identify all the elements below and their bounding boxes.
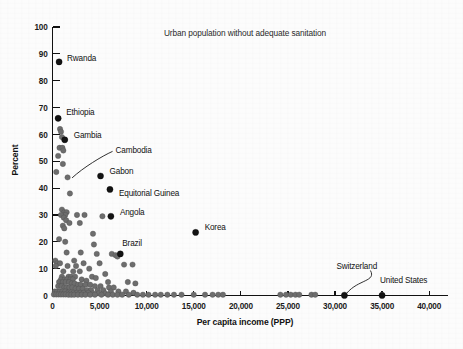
y-tick-label: 100 — [34, 23, 48, 32]
data-point — [64, 250, 69, 255]
highlighted-data-point — [55, 115, 61, 121]
data-point — [73, 263, 78, 268]
x-tick-label: 40,000 — [417, 302, 441, 311]
highlighted-data-point — [193, 229, 199, 235]
data-point — [77, 220, 82, 225]
data-point — [74, 212, 79, 217]
data-point — [65, 175, 70, 180]
highlighted-data-point — [56, 59, 62, 65]
y-tick-label: 40 — [39, 184, 48, 193]
data-point — [78, 250, 83, 255]
data-point — [210, 292, 215, 297]
x-tick-label: 30,000 — [323, 302, 347, 311]
data-point — [135, 292, 140, 297]
y-tick-label: 90 — [39, 50, 48, 59]
data-point — [165, 292, 170, 297]
data-point — [179, 292, 184, 297]
annotation-labels-group: RwandaEthiopiaGambiaCambodiaGabonEquitor… — [66, 54, 427, 285]
data-point — [191, 292, 196, 297]
scatter-plot-figure: Urban population without adequate sanita… — [0, 0, 463, 349]
x-tick-labels: 05,00010,00015,00020,00025,00030,00035,0… — [50, 302, 441, 311]
point-annotation-label: Cambodia — [116, 146, 153, 155]
annotation-leader-line — [347, 271, 372, 294]
x-tick-label: 15,000 — [182, 302, 206, 311]
point-annotation-label: Gabon — [110, 167, 134, 176]
data-point — [121, 262, 126, 267]
data-point — [97, 261, 102, 266]
data-point — [133, 281, 138, 286]
y-axis-title: Percent — [10, 144, 20, 175]
y-tick-label: 30 — [39, 211, 48, 220]
y-tick-label: 70 — [39, 104, 48, 113]
chart-canvas: Urban population without adequate sanita… — [0, 0, 463, 349]
y-tick-label: 0 — [43, 292, 48, 301]
point-annotation-label: Ethiopia — [66, 108, 95, 117]
data-point — [71, 269, 76, 274]
point-annotation-label: Equitorial Guinea — [119, 189, 180, 198]
data-point — [94, 251, 99, 256]
data-point — [152, 292, 157, 297]
data-point — [67, 220, 72, 225]
data-point — [65, 263, 70, 268]
y-tick-label: 80 — [39, 77, 48, 86]
point-annotation-label: Switzerland — [336, 262, 377, 271]
data-point — [62, 226, 67, 231]
x-tick-label: 25,000 — [276, 302, 300, 311]
data-point — [63, 239, 68, 244]
x-tick-label: 20,000 — [229, 302, 253, 311]
highlighted-data-point — [117, 251, 123, 257]
data-point — [158, 292, 163, 297]
highlighted-data-point — [379, 292, 385, 298]
data-point — [297, 292, 302, 297]
y-tick-label: 50 — [39, 157, 48, 166]
data-point — [99, 292, 104, 297]
y-tick-label: 20 — [39, 238, 48, 247]
data-point — [126, 292, 131, 297]
data-point — [130, 262, 135, 267]
data-point — [61, 269, 66, 274]
data-point — [60, 161, 65, 166]
data-point — [100, 214, 105, 219]
data-point — [56, 236, 61, 241]
point-annotation-label: United States — [380, 276, 427, 285]
data-point — [91, 242, 96, 247]
data-point — [81, 261, 86, 266]
data-point — [103, 271, 108, 276]
point-annotation-label: Gambia — [74, 131, 102, 140]
data-point — [67, 191, 72, 196]
y-tick-label: 10 — [39, 265, 48, 274]
x-tick-label: 10,000 — [135, 302, 159, 311]
y-tick-labels: 0102030405060708090100 — [34, 23, 48, 301]
highlighted-data-point — [62, 137, 68, 143]
data-point — [313, 292, 318, 297]
chart-title-group: Urban population without adequate sanita… — [164, 28, 327, 38]
data-point — [278, 292, 283, 297]
highlighted-data-point — [341, 292, 347, 298]
data-point — [125, 279, 130, 284]
x-tick-label: 5,000 — [90, 302, 110, 311]
x-axis-title: Per capita income (PPP) — [197, 317, 294, 327]
x-tick-label: 0 — [50, 302, 55, 311]
annotation-leader-line — [72, 151, 113, 178]
chart-title: Urban population without adequate sanita… — [164, 28, 327, 38]
highlighted-data-point — [108, 213, 114, 219]
data-point — [55, 153, 60, 158]
point-annotation-label: Korea — [205, 223, 227, 232]
data-points-group — [51, 116, 385, 298]
data-point — [58, 129, 63, 134]
data-point — [93, 275, 98, 280]
data-point — [105, 279, 110, 284]
data-point — [61, 148, 66, 153]
point-annotation-label: Angola — [120, 208, 145, 217]
point-annotation-label: Rwanda — [67, 54, 97, 63]
data-point — [140, 292, 145, 297]
point-annotation-label: Brazil — [122, 239, 142, 248]
data-point — [53, 263, 58, 268]
x-tick-label: 35,000 — [370, 302, 394, 311]
data-point — [171, 292, 176, 297]
data-point — [82, 212, 87, 217]
data-point — [202, 292, 207, 297]
data-point — [119, 292, 124, 297]
y-tick-label: 60 — [39, 131, 48, 140]
highlighted-data-point — [97, 173, 103, 179]
